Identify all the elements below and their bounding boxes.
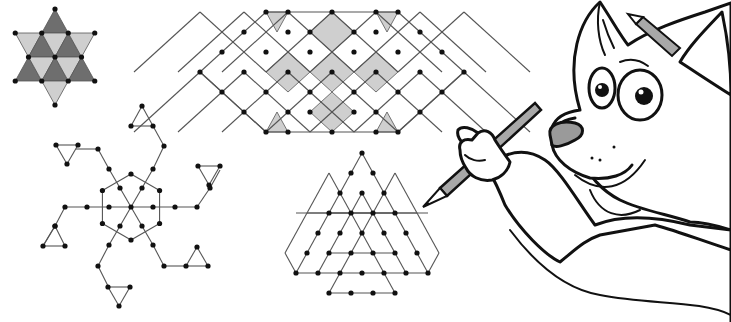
dot <box>150 242 155 247</box>
dot <box>84 204 89 209</box>
dot <box>392 290 397 295</box>
dot <box>241 109 246 114</box>
dot <box>351 89 356 94</box>
spiral-figure <box>40 103 222 308</box>
dot <box>359 150 364 155</box>
dot <box>403 230 408 235</box>
dot <box>373 129 378 134</box>
dot <box>79 54 84 59</box>
dot <box>128 204 133 209</box>
edge <box>134 72 200 132</box>
dot <box>392 210 397 215</box>
edge <box>420 12 486 72</box>
dot <box>139 185 144 190</box>
dot <box>381 230 386 235</box>
dot <box>373 109 378 114</box>
edge <box>153 126 164 146</box>
dot <box>217 163 222 168</box>
edge <box>178 12 244 72</box>
dot <box>13 30 18 35</box>
edge <box>108 287 119 306</box>
dot <box>439 49 444 54</box>
dot <box>337 270 342 275</box>
dot <box>326 290 331 295</box>
dot <box>92 30 97 35</box>
edge <box>285 253 296 273</box>
dot <box>307 89 312 94</box>
dot <box>337 190 342 195</box>
dot <box>95 263 100 268</box>
dot <box>351 109 356 114</box>
edge <box>200 72 266 132</box>
edge <box>43 226 55 246</box>
dot <box>39 30 44 35</box>
dot <box>219 89 224 94</box>
dot <box>326 250 331 255</box>
dot <box>106 166 111 171</box>
dot <box>370 250 375 255</box>
dot <box>392 250 397 255</box>
dot <box>13 78 18 83</box>
dot <box>106 242 111 247</box>
dot <box>116 303 121 308</box>
edge <box>464 12 530 72</box>
edge <box>420 72 486 132</box>
dot <box>39 78 44 83</box>
dot <box>52 223 57 228</box>
edge <box>131 106 142 126</box>
dot <box>241 69 246 74</box>
dot <box>100 221 105 226</box>
dot <box>183 263 188 268</box>
dot <box>128 171 133 176</box>
dot <box>307 49 312 54</box>
dot <box>285 69 290 74</box>
dot <box>106 204 111 209</box>
dot <box>370 210 375 215</box>
dot <box>285 129 290 134</box>
edge <box>209 166 220 185</box>
dot <box>359 270 364 275</box>
dot <box>359 230 364 235</box>
dot <box>157 188 162 193</box>
dot <box>66 30 71 35</box>
dot <box>207 185 212 190</box>
dot <box>150 166 155 171</box>
dot <box>337 230 342 235</box>
dot <box>373 29 378 34</box>
edge <box>198 166 209 185</box>
dot <box>197 69 202 74</box>
dot <box>329 9 334 14</box>
dot <box>285 29 290 34</box>
dot <box>329 69 334 74</box>
dot <box>395 49 400 54</box>
dot <box>351 49 356 54</box>
dot <box>370 290 375 295</box>
dot <box>62 243 67 248</box>
edge <box>428 253 439 273</box>
dot <box>139 103 144 108</box>
edge <box>186 247 197 266</box>
dot <box>326 210 331 215</box>
edge <box>398 72 464 132</box>
dot <box>241 29 246 34</box>
dot <box>263 129 268 134</box>
dot <box>315 270 320 275</box>
dot <box>439 89 444 94</box>
dot <box>359 190 364 195</box>
edge <box>119 287 130 306</box>
shaded-region <box>42 9 69 33</box>
dot <box>52 6 57 11</box>
dot <box>348 170 353 175</box>
illustration-canvas <box>0 0 731 322</box>
dot <box>150 123 155 128</box>
dot <box>62 204 67 209</box>
dot <box>315 230 320 235</box>
edge <box>153 146 164 169</box>
dot <box>307 29 312 34</box>
edge <box>153 245 164 266</box>
edge <box>55 226 65 246</box>
dot <box>373 9 378 14</box>
dot <box>105 284 110 289</box>
dot <box>52 102 57 107</box>
dot <box>395 9 400 14</box>
